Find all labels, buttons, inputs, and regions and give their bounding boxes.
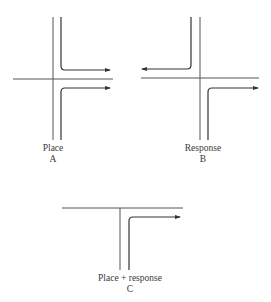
panel-b-letter: B	[173, 154, 233, 165]
maze-strategy-diagram: Place A Response B Place + response C	[0, 0, 271, 302]
panel-a-title: Place	[33, 143, 73, 154]
panel-c-maze	[62, 208, 183, 270]
panel-b-maze	[141, 17, 259, 140]
panel-b-upper-left-route-arrow	[142, 17, 191, 69]
panel-a-letter: A	[33, 154, 73, 165]
panel-b-lower-right-route-arrow	[208, 88, 258, 140]
panel-c-letter: C	[80, 284, 180, 295]
panel-c-label: Place + response C	[80, 273, 180, 295]
panel-a-label: Place A	[33, 143, 73, 165]
panel-b-label: Response B	[173, 143, 233, 165]
panel-c-title: Place + response	[80, 273, 180, 284]
panel-b-title: Response	[173, 143, 233, 154]
panel-a-maze	[13, 17, 113, 140]
panel-a-lower-route-arrow	[61, 88, 110, 140]
panel-c-route-arrow	[129, 217, 180, 270]
panel-a-upper-route-arrow	[61, 17, 110, 70]
